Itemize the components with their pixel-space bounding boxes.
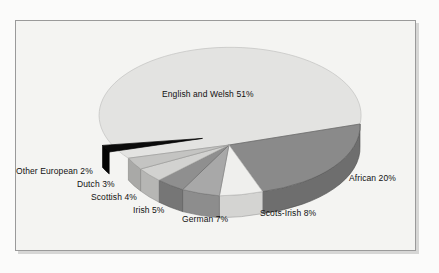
slice-label-irish: Irish 5%: [133, 205, 165, 215]
slice-label-german: German 7%: [182, 214, 228, 224]
slice-label-scots-irish: Scots-Irish 8%: [260, 208, 316, 218]
slice-label-english-and-welsh: English and Welsh 51%: [162, 89, 254, 99]
slice-label-scottish: Scottish 4%: [91, 192, 137, 202]
slice-label-other-european: Other European 2%: [16, 166, 93, 176]
slice-label-dutch: Dutch 3%: [77, 179, 115, 189]
slice-label-african: African 20%: [349, 173, 396, 183]
chart-frame: English and Welsh 51% African 20% Scots-…: [15, 20, 416, 251]
